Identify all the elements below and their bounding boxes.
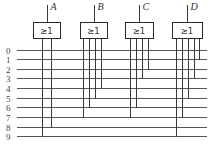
input-label-7: 7 <box>6 113 11 123</box>
or-gates: ≥1A≥1B≥1C≥1D <box>34 1 203 137</box>
gate-symbol: ≥1 <box>181 26 194 36</box>
input-label-9: 9 <box>6 132 11 142</box>
gate-symbol: ≥1 <box>133 26 146 36</box>
or-encoder-diagram: 0123456789 ≥1A≥1B≥1C≥1D <box>0 0 215 147</box>
output-label-b: B <box>98 1 104 12</box>
input-label-4: 4 <box>6 84 11 94</box>
gate-symbol: ≥1 <box>87 26 100 36</box>
gate-symbol: ≥1 <box>40 26 53 36</box>
gate-d: ≥1D <box>173 1 203 137</box>
output-label-d: D <box>190 1 199 12</box>
output-label-c: C <box>143 1 150 12</box>
gate-a: ≥1A <box>34 1 61 137</box>
input-label-1: 1 <box>6 55 11 65</box>
output-label-a: A <box>50 1 58 12</box>
input-label-6: 6 <box>6 103 11 113</box>
input-label-3: 3 <box>6 74 11 84</box>
